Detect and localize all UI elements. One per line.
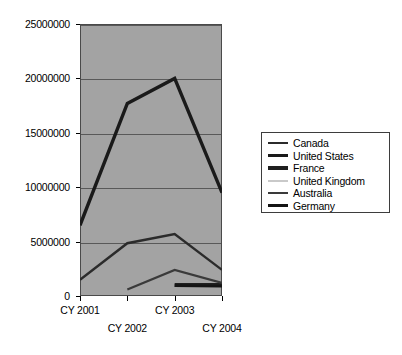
legend-item[interactable]: United States [268, 150, 389, 163]
y-axis: 0500000010000000150000002000000025000000 [0, 0, 76, 355]
series-layer [80, 24, 222, 296]
y-tick-label: 25000000 [25, 18, 70, 30]
y-tick-label: 15000000 [25, 127, 70, 139]
legend-label: United Kingdom [293, 175, 365, 187]
x-tick-mark [222, 296, 223, 301]
legend-swatch-icon [268, 204, 288, 207]
legend-label: Australia [293, 187, 332, 199]
series-line [175, 286, 222, 287]
legend-label: Canada [293, 137, 329, 149]
legend-item[interactable]: France [268, 162, 389, 175]
x-tick-label: CY 2003 [155, 304, 194, 316]
legend-swatch-icon [268, 154, 288, 157]
legend-swatch-icon [268, 142, 288, 144]
y-tick-label: 0 [64, 290, 70, 302]
y-tick-label: 10000000 [25, 181, 70, 193]
legend-item[interactable]: United Kingdom [268, 175, 389, 188]
legend-swatch-icon [268, 180, 288, 182]
y-tick-label: 5000000 [31, 236, 70, 248]
legend-swatch-icon [268, 192, 288, 194]
series-line [80, 234, 222, 280]
legend-label: United States [293, 150, 353, 162]
y-tick-label: 20000000 [25, 72, 70, 84]
series-line [80, 78, 222, 225]
legend-item[interactable]: Canada [268, 137, 389, 150]
x-tick-label: CY 2004 [202, 322, 241, 334]
series-lines [80, 24, 222, 296]
legend: CanadaUnited StatesFranceUnited KingdomA… [261, 132, 390, 213]
x-tick-label: CY 2001 [60, 304, 99, 316]
line-chart-figure: 0500000010000000150000002000000025000000… [0, 0, 402, 355]
legend-label: France [293, 162, 324, 174]
legend-swatch-icon [268, 166, 288, 170]
x-tick-mark [127, 296, 128, 301]
x-tick-label: CY 2002 [108, 322, 147, 334]
x-tick-mark [80, 296, 81, 301]
legend-item[interactable]: Germany [268, 200, 389, 213]
x-tick-mark [175, 296, 176, 301]
legend-label: Germany [293, 200, 335, 212]
legend-item[interactable]: Australia [268, 187, 389, 200]
